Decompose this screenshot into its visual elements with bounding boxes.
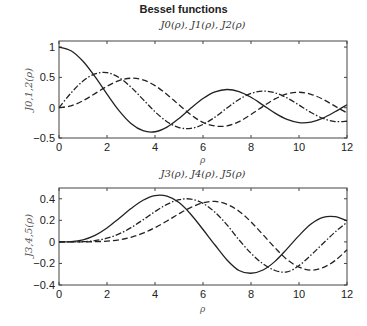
x-tick-label: 10 <box>293 141 305 153</box>
y-tick-label: 1 <box>49 41 55 53</box>
x-tick-label: 2 <box>104 288 110 300</box>
x-tick-label: 12 <box>341 288 353 300</box>
x-tick-label: 0 <box>56 141 62 153</box>
series-j3-line <box>59 195 347 273</box>
x-tick-label: 6 <box>200 288 206 300</box>
x-tick-label: 6 <box>200 141 206 153</box>
y-tick-label: 0 <box>49 236 55 248</box>
x-tick-label: 2 <box>104 141 110 153</box>
y-tick-label: 0.5 <box>40 71 55 83</box>
y-tick-label: 0.4 <box>40 193 55 205</box>
bessel-plots: 024681012−0.500.51024681012−0.4−0.200.20… <box>0 0 367 326</box>
x-tick-label: 10 <box>293 288 305 300</box>
series-j1-line <box>59 72 347 128</box>
x-tick-label: 8 <box>248 141 254 153</box>
x-tick-label: 4 <box>152 288 158 300</box>
x-tick-label: 8 <box>248 288 254 300</box>
y-tick-label: −0.5 <box>33 132 55 144</box>
plot-frame <box>59 188 347 285</box>
series-j2-line <box>59 78 347 126</box>
x-tick-label: 12 <box>341 141 353 153</box>
x-tick-label: 0 <box>56 288 62 300</box>
x-tick-label: 4 <box>152 141 158 153</box>
y-tick-label: 0 <box>49 102 55 114</box>
y-tick-label: −0.4 <box>33 279 55 291</box>
series-j4-line <box>59 199 347 272</box>
y-tick-label: −0.2 <box>33 257 55 269</box>
series-j5-line <box>59 201 347 270</box>
y-tick-label: 0.2 <box>40 214 55 226</box>
